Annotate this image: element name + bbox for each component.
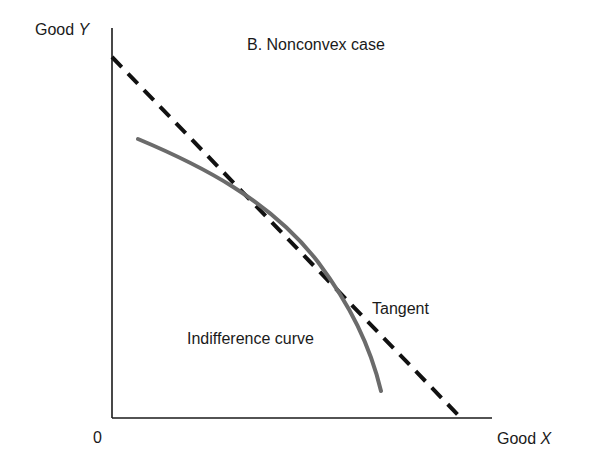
tangent-label: Tangent	[372, 301, 429, 317]
indifference-curve	[138, 139, 381, 391]
y-axis-label: Good Y	[35, 22, 89, 38]
tangent-line	[112, 57, 461, 418]
diagram-canvas	[0, 0, 605, 466]
x-axis-label: Good X	[497, 431, 551, 447]
origin-label: 0	[93, 430, 102, 446]
chart-title: B. Nonconvex case	[247, 37, 385, 53]
indifference-curve-label: Indifference curve	[187, 331, 314, 347]
